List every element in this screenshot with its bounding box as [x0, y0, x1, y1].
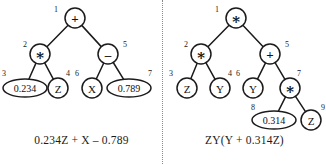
tree-edge [82, 25, 101, 46]
node-id-label: 5 [285, 40, 289, 49]
tree-edge [45, 63, 54, 79]
node-id-label: 6 [75, 69, 79, 78]
caption-right: ZY(Y + 0.314Z) [163, 134, 326, 146]
node-label: ∗ [196, 47, 206, 63]
node-label: – [104, 47, 112, 62]
tree-node[interactable]: +5 [260, 40, 289, 65]
tree-node[interactable]: X6 [75, 69, 102, 99]
tree-node[interactable]: Z9 [301, 103, 325, 131]
node-label: Y [216, 83, 224, 95]
tree-node[interactable]: ∗7 [280, 69, 301, 99]
tree-node[interactable]: 0.2343 [2, 69, 47, 98]
node-label: Z [55, 83, 62, 95]
expression-tree-right: ∗1∗2+5Z3Y4Y6∗70.3148Z9 [163, 0, 326, 130]
tree-edge [257, 63, 265, 79]
tree-edge [113, 63, 124, 81]
tree-edge [96, 63, 103, 79]
node-label: Z [308, 115, 315, 127]
node-id-label: 7 [297, 69, 301, 78]
node-label: ∗ [231, 11, 241, 27]
node-id-label: 1 [54, 5, 58, 14]
node-label: Y [249, 83, 257, 95]
node-id-label: 6 [236, 69, 240, 78]
node-id-label: 9 [321, 103, 325, 112]
tree-node[interactable]: –5 [98, 40, 127, 65]
tree-node[interactable]: ∗2 [184, 40, 211, 65]
tree-node[interactable]: +1 [54, 5, 85, 29]
tree-edge [275, 63, 285, 80]
node-label: 0.234 [14, 83, 37, 94]
tree-node[interactable]: ∗1 [215, 5, 246, 29]
node-id-label: 8 [251, 103, 255, 112]
tree-edge [47, 25, 68, 47]
node-id-label: 2 [23, 40, 27, 49]
node-id-label: 4 [66, 69, 70, 78]
expression-tree-left: +1∗2–50.2343Z4X60.7897 [0, 0, 163, 130]
node-label: ∗ [35, 47, 45, 63]
tree-node[interactable]: Y6 [236, 69, 263, 99]
node-id-label: 5 [123, 40, 127, 49]
node-id-label: 1 [215, 5, 219, 14]
tree-node[interactable]: Y4 [210, 69, 232, 99]
node-id-label: 4 [228, 69, 232, 78]
node-id-label: 7 [148, 69, 152, 78]
node-label: 0.314 [263, 115, 286, 126]
node-label: ∗ [285, 81, 295, 97]
tree-edge [191, 63, 197, 79]
tree-node[interactable]: ∗2 [23, 40, 50, 65]
node-label: + [71, 11, 78, 26]
tree-edge [29, 63, 36, 80]
tree-node[interactable]: Z4 [48, 69, 70, 99]
node-label: + [266, 47, 273, 62]
caption-left: 0.234Z + X – 0.789 [0, 134, 163, 146]
tree-node[interactable]: 0.3148 [251, 103, 296, 130]
expression-tree-panel-left: +1∗2–50.2343Z4X60.7897 0.234Z + X – 0.78… [0, 0, 163, 164]
tree-edge [243, 25, 263, 46]
tree-edge [295, 96, 305, 111]
node-label: Z [184, 83, 191, 95]
node-label: X [88, 83, 96, 95]
expression-tree-panel-right: ∗1∗2+5Z3Y4Y6∗70.3148Z9 ZY(Y + 0.314Z) [163, 0, 326, 164]
node-id-label: 2 [184, 40, 188, 49]
tree-edge [206, 63, 215, 80]
tree-edge [208, 25, 229, 47]
node-id-label: 3 [169, 69, 173, 78]
tree-node[interactable]: 0.7897 [107, 69, 152, 98]
node-id-label: 3 [2, 69, 6, 78]
node-label: 0.789 [118, 83, 141, 94]
tree-edge [278, 97, 286, 112]
